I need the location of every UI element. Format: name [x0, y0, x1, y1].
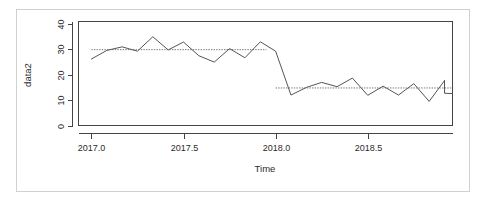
y-tick-label: 0 [56, 124, 66, 129]
x-axis-ticks [92, 134, 369, 139]
plot-area-border [79, 22, 453, 126]
data-series-group [91, 37, 452, 102]
series-tail [445, 81, 453, 94]
x-tick-label: 2017.0 [78, 143, 106, 153]
y-tick-label: 20 [56, 70, 66, 80]
x-tick-label: 2017.5 [171, 143, 199, 153]
x-axis: 2017.02017.52018.02018.5 [78, 134, 453, 154]
y-tick-label: 30 [56, 44, 66, 54]
x-axis-title: Time [255, 163, 276, 174]
y-tick-label: 10 [56, 95, 66, 105]
y-tick-label: 40 [56, 19, 66, 29]
series-data2 [91, 37, 444, 102]
y-axis-tick-labels: 010203040 [56, 19, 66, 129]
mean-reference-lines [91, 50, 452, 88]
plot-canvas: 010203040 2017.02017.52018.02018.5 Time … [0, 0, 485, 201]
x-tick-label: 2018.5 [355, 143, 383, 153]
y-axis-ticks [68, 25, 73, 127]
ts-plot-figure: 010203040 2017.02017.52018.02018.5 Time … [0, 0, 485, 201]
x-tick-label: 2018.0 [263, 143, 291, 153]
x-axis-tick-labels: 2017.02017.52018.02018.5 [78, 143, 383, 153]
y-axis-title: data2 [22, 63, 33, 87]
y-axis: 010203040 [56, 19, 72, 129]
